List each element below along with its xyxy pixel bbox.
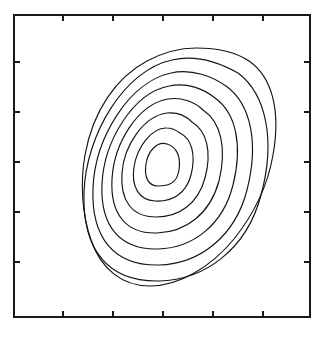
plot-canvas [0, 0, 326, 341]
plot-background [0, 0, 326, 341]
contour-plot-figure [0, 0, 326, 341]
